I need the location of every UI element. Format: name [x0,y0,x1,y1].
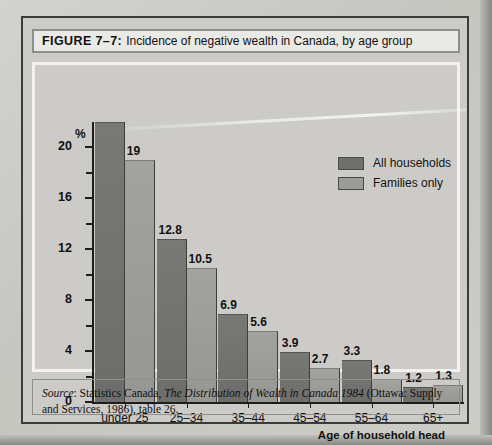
y-tick-label: 12 [44,241,72,255]
bar-value-label: 19 [127,144,140,158]
source-note: Source: Statistics Canada, The Distribut… [32,379,460,415]
x-axis-title: Age of household head [318,429,445,441]
bar-value-label: 3.9 [282,336,299,350]
figure-title: Incidence of negative wealth in Canada, … [126,34,412,48]
y-tick-minor [86,274,92,276]
y-tick-minor [86,325,92,327]
y-tick-label: 8 [44,292,72,306]
y-axis-line [92,122,94,403]
y-tick-major [85,248,92,250]
bar-value-label: 3.3 [344,344,361,358]
y-tick-major [85,350,92,352]
chart-legend: All households Families only [338,156,451,196]
legend-swatch-all-households [338,157,364,170]
y-tick-minor [86,172,92,174]
legend-item-all-households: All households [338,156,451,170]
bar-all-households [157,239,187,402]
bar-value-label: 12.8 [159,223,182,237]
glare-streak [95,108,467,132]
legend-label-families-only: Families only [373,176,443,190]
source-publication-title: The Distribution of Wealth in Canada 198… [164,387,364,399]
source-prefix: Source [42,387,74,399]
legend-item-families-only: Families only [338,176,451,190]
figure-number: FIGURE 7–7: [42,34,122,48]
y-tick-label: 4 [44,343,72,357]
page-background: FIGURE 7–7: Incidence of negative wealth… [0,0,492,445]
source-text-before: : Statistics Canada, [74,387,165,399]
bar-value-label: 2.7 [312,352,329,366]
y-tick-major [85,146,92,148]
paper-right-edge [480,0,492,445]
figure-title-bar: FIGURE 7–7: Incidence of negative wealth… [32,29,460,53]
y-axis-unit-label: % [75,127,86,141]
bar-value-label: 6.9 [220,298,237,312]
figure-container: FIGURE 7–7: Incidence of negative wealth… [21,16,469,424]
legend-label-all-households: All households [373,156,451,170]
y-tick-major [85,299,92,301]
legend-swatch-families-only [338,177,364,190]
bar-value-label: 10.5 [189,252,212,266]
y-tick-minor [86,376,92,378]
y-tick-label: 16 [44,190,72,204]
y-tick-major [85,197,92,199]
bar-all-households [95,122,125,402]
bar-families-only [125,160,155,402]
bar-value-label: 5.6 [250,315,267,329]
y-tick-label: 20 [44,139,72,153]
bar-value-label: 1.8 [374,363,391,377]
chart-frame: % 048121620 1912.810.56.95.63.92.73.31.8… [32,62,460,372]
y-tick-minor [86,223,92,225]
